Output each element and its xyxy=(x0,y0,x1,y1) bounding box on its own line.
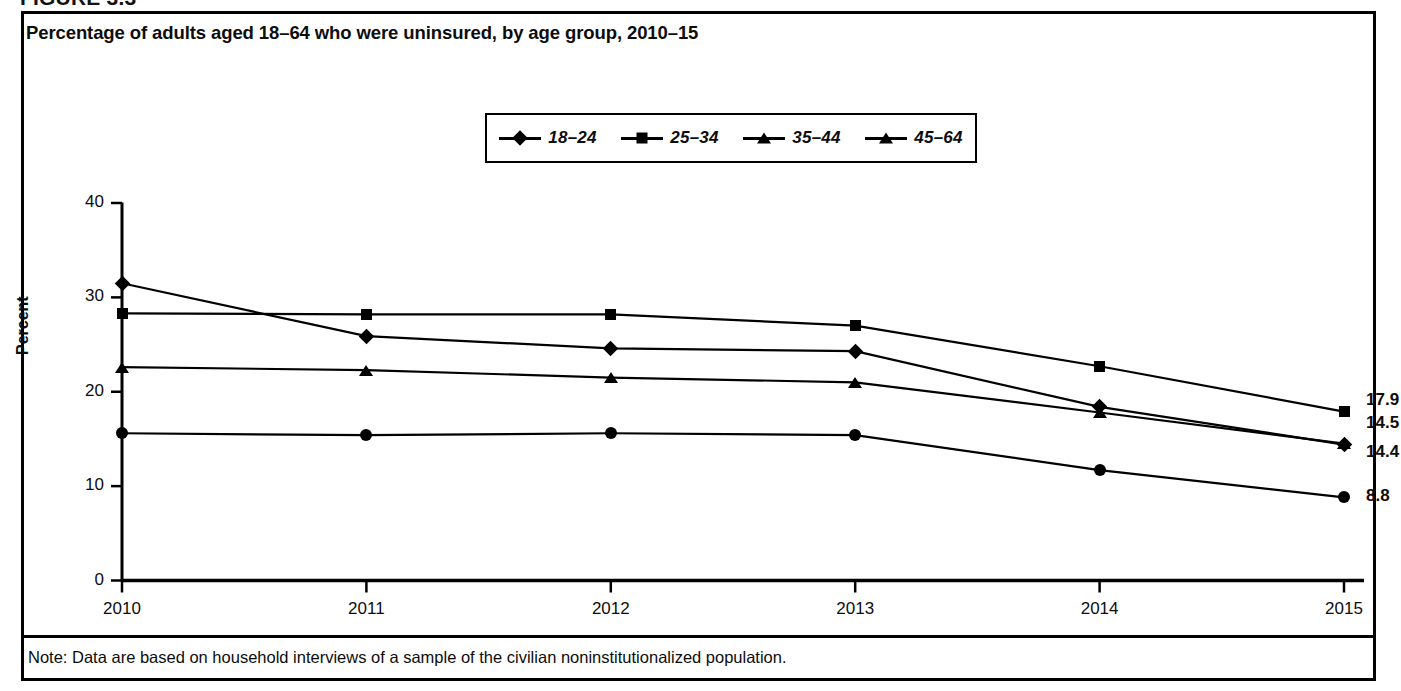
triangle-marker-icon xyxy=(1337,438,1351,449)
y-tick-20: 20 xyxy=(62,381,104,401)
triangle-marker-icon xyxy=(359,365,373,376)
square-marker-icon xyxy=(605,309,616,320)
square-marker-icon xyxy=(1094,361,1105,372)
y-axis-label: Percent xyxy=(14,296,32,355)
figure-container: FIGURE 3.3 Percentage of adults aged 18–… xyxy=(0,0,1401,691)
y-tick-10: 10 xyxy=(62,475,104,495)
y-tick-40: 40 xyxy=(62,192,104,212)
series-line-45–64 xyxy=(122,433,1344,497)
square-marker-icon xyxy=(1339,406,1350,417)
circle-marker-icon xyxy=(1094,464,1106,476)
end-label-18–24: 14.4 xyxy=(1366,442,1399,462)
triangle-marker-icon xyxy=(848,377,862,388)
end-label-45–64: 8.8 xyxy=(1366,486,1390,506)
square-marker-icon xyxy=(850,320,861,331)
y-tick-0: 0 xyxy=(62,570,104,590)
x-tick-2010: 2010 xyxy=(82,599,162,619)
chart-canvas xyxy=(0,0,1401,691)
square-marker-icon xyxy=(117,308,128,319)
note-divider xyxy=(24,635,1373,638)
triangle-marker-icon xyxy=(604,372,618,383)
square-marker-icon xyxy=(361,309,372,320)
end-label-35–44: 14.5 xyxy=(1366,413,1399,433)
y-tick-30: 30 xyxy=(62,286,104,306)
x-tick-2012: 2012 xyxy=(571,599,651,619)
x-tick-2015: 2015 xyxy=(1304,599,1384,619)
series-line-25–34 xyxy=(122,313,1344,411)
circle-marker-icon xyxy=(605,427,617,439)
x-tick-2011: 2011 xyxy=(326,599,406,619)
x-tick-2014: 2014 xyxy=(1060,599,1140,619)
triangle-marker-icon xyxy=(1093,407,1107,418)
chart-note: Note: Data are based on household interv… xyxy=(28,648,787,667)
triangle-marker-icon xyxy=(115,362,129,373)
x-tick-2013: 2013 xyxy=(815,599,895,619)
plot-area: Percent 010203040 2010201120122013201420… xyxy=(0,0,1401,691)
end-label-25–34: 17.9 xyxy=(1366,390,1399,410)
